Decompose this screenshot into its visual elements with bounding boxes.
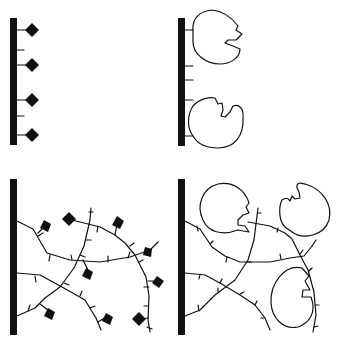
enzyme-shape (189, 98, 244, 148)
panel-bottom-right (178, 179, 330, 335)
ligand-diamond (25, 23, 39, 37)
ligand-diamond (40, 220, 51, 232)
ligand-diamond (44, 308, 55, 320)
polymer-chain (17, 273, 101, 330)
surface-bar (178, 179, 185, 335)
ligand-diamond (62, 212, 76, 226)
ligand-diamond (25, 93, 39, 107)
panel-bottom-left (10, 179, 164, 335)
ligand-diamond (102, 313, 113, 325)
ligand-diamond (82, 268, 93, 280)
surface-bar (178, 18, 185, 146)
enzyme-shape (200, 183, 249, 232)
ligand-diamond (25, 58, 39, 72)
ligand-diamond (25, 128, 39, 142)
ligand-diamond (152, 276, 164, 288)
enzyme-shape (193, 10, 242, 64)
enzyme-shape (280, 183, 330, 236)
surface-bar (10, 179, 17, 335)
diagram-canvas (0, 0, 343, 348)
ligand-diamond (112, 216, 124, 229)
polymer-chain (17, 221, 158, 262)
polymer-chain (248, 222, 316, 332)
enzyme-shape (271, 267, 313, 327)
ligand-diamond (143, 247, 152, 257)
ligand-diamond (132, 312, 146, 326)
panel-top-left (10, 18, 39, 145)
panel-top-right (178, 10, 243, 148)
surface-bar (10, 18, 17, 145)
polymer-chain (17, 208, 91, 316)
